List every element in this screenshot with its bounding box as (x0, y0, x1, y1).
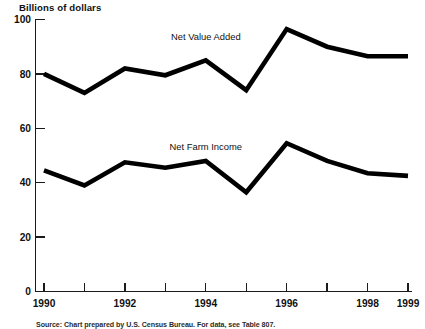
series-annotations: Net Value AddedNet Farm Income (170, 31, 242, 152)
y-axis-tick-labels: 020406080100 (14, 14, 31, 297)
x-tick-label: 1992 (114, 298, 137, 309)
y-tick-label: 80 (20, 69, 32, 80)
y-tick-label: 60 (20, 123, 32, 134)
x-tick-label: 1994 (194, 298, 217, 309)
x-axis-tick-labels: 199019921994199619981999 (33, 298, 420, 309)
x-tick-label: 1999 (397, 298, 420, 309)
series-label-0: Net Value Added (171, 31, 241, 42)
x-tick-label: 1996 (275, 298, 298, 309)
y-axis-ticks (36, 20, 45, 292)
y-tick-label: 0 (25, 286, 31, 297)
series-lines (44, 29, 408, 192)
x-axis-ticks (44, 283, 408, 291)
y-axis-title: Billions of dollars (19, 2, 101, 13)
source-note: Source: Chart prepared by U.S. Census Bu… (36, 321, 275, 329)
y-tick-label: 40 (20, 177, 32, 188)
y-tick-label: 20 (20, 232, 32, 243)
y-tick-label: 100 (14, 14, 31, 25)
x-tick-label: 1998 (356, 298, 379, 309)
x-tick-label: 1990 (33, 298, 56, 309)
series-label-1: Net Farm Income (170, 141, 242, 152)
